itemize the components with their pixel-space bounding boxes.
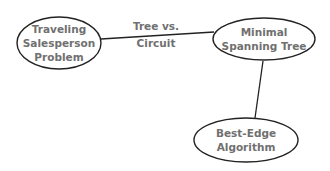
node-ellipse bbox=[213, 18, 315, 60]
node-label-line: Best-Edge bbox=[216, 127, 276, 139]
node-best-edge-algorithm[interactable]: Best-Edge Algorithm bbox=[194, 118, 298, 162]
node-minimal-spanning-tree[interactable]: Minimal Spanning Tree bbox=[213, 18, 315, 60]
edge-label-line: Tree vs. bbox=[133, 20, 179, 32]
node-label-line: Algorithm bbox=[217, 141, 276, 153]
node-label-line: Spanning Tree bbox=[222, 40, 307, 52]
node-label-line: Traveling bbox=[32, 23, 86, 35]
node-label-line: Minimal bbox=[241, 26, 288, 38]
edge-label-line: Circuit bbox=[137, 37, 176, 49]
node-label-line: Salesperson bbox=[23, 37, 95, 49]
node-traveling-salesperson-problem[interactable]: Traveling Salesperson Problem bbox=[17, 17, 101, 69]
node-label-line: Problem bbox=[34, 51, 83, 63]
concept-map: Tree vs. Circuit Traveling Salesperson P… bbox=[0, 0, 330, 171]
node-ellipse bbox=[194, 118, 298, 162]
edge-mst-to-best-edge bbox=[255, 61, 263, 118]
